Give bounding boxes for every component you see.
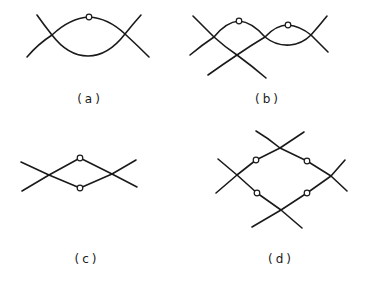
panel-d-open-circle-lower-right [304, 190, 310, 196]
panel-d-left-upper-line [218, 159, 237, 175]
panel-d-open-circle-upper-left [253, 157, 259, 163]
panel-a-upper-curve [27, 17, 149, 57]
panel-d-left-lower-line [216, 175, 237, 193]
panel-c-diagram [21, 155, 137, 191]
panel-c-label: (c) [75, 252, 100, 266]
panel-d-open-circle-lower-left [254, 190, 260, 196]
panel-d-label: (d) [268, 252, 294, 266]
panel-b-open-circle-1 [236, 18, 242, 24]
panel-a-lower-curve [37, 15, 141, 56]
panel-a-label: (a) [77, 92, 103, 106]
panel-b-curve-3 [265, 25, 328, 52]
panel-a-diagram [27, 14, 149, 57]
panel-d-right-upper-line [331, 160, 345, 176]
panel-d-top-left-line [256, 131, 280, 148]
diagram-figure [0, 0, 367, 283]
panel-c-open-circle-bottom [77, 185, 83, 191]
panel-d-bottom-right-line [281, 210, 302, 228]
panel-d-right-lower-line [331, 176, 347, 191]
panel-c-lower-path [21, 160, 136, 188]
panel-b-open-circle-2 [285, 22, 291, 28]
panel-d-bottom-left-line [252, 210, 281, 227]
panel-a-open-circle [86, 14, 92, 20]
panel-d-top-right-line [280, 132, 304, 148]
panel-d-open-circle-upper-right [304, 158, 310, 164]
panel-b-curve-1 [193, 16, 266, 78]
panel-b-label: (b) [255, 92, 281, 106]
panel-c-open-circle-top [77, 155, 83, 161]
panel-d-diagram [216, 131, 347, 228]
panel-b-diagram [190, 16, 328, 78]
